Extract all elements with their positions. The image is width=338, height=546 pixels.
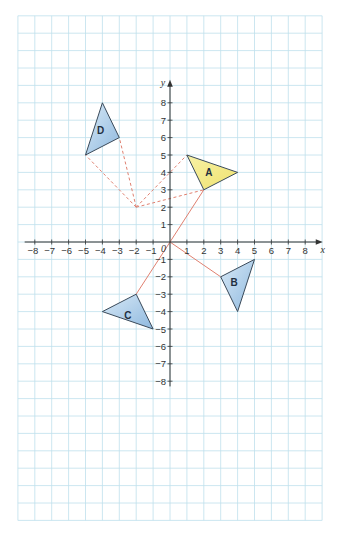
x-axis-label: x: [319, 244, 325, 255]
x-tick-label: 4: [235, 245, 240, 256]
x-tick-label: 1: [184, 245, 189, 256]
x-tick-label: 8: [303, 245, 308, 256]
y-tick-label: −5: [155, 324, 166, 335]
x-tick-label: −8: [27, 245, 38, 256]
triangle-label-c: C: [124, 310, 131, 321]
y-tick-label: −3: [155, 289, 166, 300]
triangle-label-b: B: [231, 277, 238, 288]
y-tick-label: 1: [161, 219, 166, 230]
axes: −8−7−6−5−4−3−2−112345678−8−7−6−5−4−3−2−1…: [25, 77, 326, 387]
x-tick-label: 5: [252, 245, 257, 256]
x-tick-label: −4: [95, 245, 106, 256]
y-tick-label: −6: [155, 341, 166, 352]
x-tick-label: −5: [78, 245, 89, 256]
x-tick-label: −6: [61, 245, 72, 256]
coordinate-grid-diagram: −8−7−6−5−4−3−2−112345678−8−7−6−5−4−3−2−1…: [0, 0, 338, 546]
y-tick-label: −2: [155, 271, 166, 282]
y-axis-arrow-icon: [167, 80, 173, 87]
y-tick-label: −4: [155, 306, 166, 317]
y-tick-label: 8: [161, 97, 166, 108]
y-tick-label: 7: [161, 115, 166, 126]
y-axis-label: y: [160, 77, 166, 88]
dashed-construction-line: [86, 155, 137, 207]
x-tick-label: 3: [218, 245, 223, 256]
origin-label: 0: [161, 243, 166, 254]
y-tick-label: −7: [155, 358, 166, 369]
triangle-label-d: D: [97, 125, 104, 136]
x-tick-label: −3: [112, 245, 123, 256]
x-tick-label: 6: [269, 245, 274, 256]
y-tick-label: 2: [161, 202, 166, 213]
triangle-label-a: A: [205, 167, 212, 178]
dashed-construction-line: [136, 155, 187, 207]
y-tick-label: −8: [155, 376, 166, 387]
x-tick-label: 7: [286, 245, 291, 256]
y-tick-label: −1: [155, 254, 166, 265]
x-tick-label: −7: [44, 245, 55, 256]
y-tick-label: 6: [161, 132, 166, 143]
y-tick-label: 4: [161, 167, 166, 178]
y-tick-label: 5: [161, 150, 166, 161]
x-tick-label: −2: [129, 245, 140, 256]
y-tick-label: 3: [161, 184, 166, 195]
x-tick-label: 2: [201, 245, 206, 256]
